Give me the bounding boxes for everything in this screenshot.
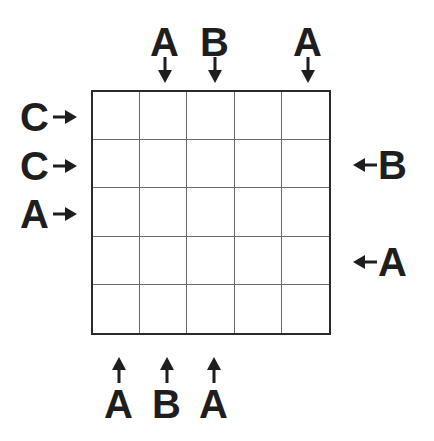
- clue-letter: B: [378, 145, 407, 185]
- grid-cell[interactable]: [140, 285, 187, 333]
- clue-letter: C: [20, 97, 49, 137]
- grid-cell[interactable]: [187, 285, 234, 333]
- clue-letter: A: [150, 22, 179, 62]
- clue-letter: B: [152, 384, 181, 424]
- grid-cell[interactable]: [235, 188, 282, 236]
- grid-cell[interactable]: [140, 188, 187, 236]
- arrow-right-icon: [53, 110, 77, 124]
- grid-cell[interactable]: [93, 92, 140, 140]
- grid-cell[interactable]: [140, 237, 187, 285]
- arrow-left-icon: [353, 158, 377, 172]
- grid-cell[interactable]: [282, 92, 329, 140]
- grid-cell[interactable]: [282, 285, 329, 333]
- arrow-up-icon: [160, 357, 174, 383]
- clue-letter: C: [20, 146, 49, 186]
- clue-letter: A: [104, 384, 133, 424]
- grid-cell[interactable]: [93, 285, 140, 333]
- grid-cell[interactable]: [93, 140, 140, 188]
- arrow-down-icon: [208, 57, 222, 83]
- clue-letter: B: [200, 22, 229, 62]
- grid-cell[interactable]: [140, 92, 187, 140]
- puzzle-grid: [91, 90, 331, 335]
- grid-cell[interactable]: [187, 92, 234, 140]
- grid-cell[interactable]: [282, 237, 329, 285]
- grid-cell[interactable]: [235, 92, 282, 140]
- grid-cell[interactable]: [235, 285, 282, 333]
- clue-letter: A: [293, 22, 322, 62]
- grid-cell[interactable]: [93, 188, 140, 236]
- arrow-up-icon: [207, 357, 221, 383]
- grid-cell[interactable]: [187, 140, 234, 188]
- grid-cell[interactable]: [235, 140, 282, 188]
- arrow-left-icon: [353, 255, 377, 269]
- clue-letter: A: [20, 194, 49, 234]
- arrow-up-icon: [112, 357, 126, 383]
- grid-cell[interactable]: [282, 140, 329, 188]
- grid-cell[interactable]: [235, 237, 282, 285]
- grid-cell[interactable]: [93, 237, 140, 285]
- grid-cell[interactable]: [140, 140, 187, 188]
- arrow-right-icon: [53, 207, 77, 221]
- arrow-down-icon: [301, 57, 315, 83]
- clue-letter: A: [199, 384, 228, 424]
- grid-cell[interactable]: [282, 188, 329, 236]
- arrow-right-icon: [53, 159, 77, 173]
- grid-cell[interactable]: [187, 237, 234, 285]
- grid-cell[interactable]: [187, 188, 234, 236]
- clue-letter: A: [378, 242, 407, 282]
- arrow-down-icon: [158, 57, 172, 83]
